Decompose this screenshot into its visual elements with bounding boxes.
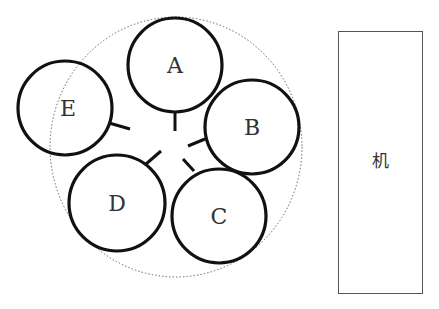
circle-b: B xyxy=(205,80,299,174)
label-b: B xyxy=(244,115,260,140)
label-e: E xyxy=(60,96,76,121)
spoke-c xyxy=(183,159,194,171)
machine-box: 机 xyxy=(339,32,423,294)
spoke-e xyxy=(109,123,130,129)
spoke-d xyxy=(146,151,161,164)
label-d: D xyxy=(108,191,126,216)
circle-d: D xyxy=(69,155,165,251)
circle-c: C xyxy=(172,169,266,263)
label-a: A xyxy=(166,53,184,78)
label-c: C xyxy=(211,204,228,229)
circle-e: E xyxy=(18,61,112,155)
diagram-canvas: A B C D E 机 xyxy=(0,0,439,309)
machine-label: 机 xyxy=(372,151,389,171)
circle-a: A xyxy=(128,18,222,112)
spoke-b xyxy=(188,139,205,146)
